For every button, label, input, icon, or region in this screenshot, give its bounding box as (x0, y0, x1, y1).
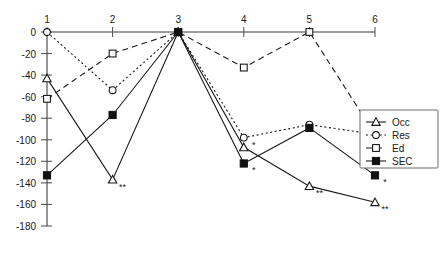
significance-marker: * (252, 140, 256, 150)
y-tick-label: -180 (16, 221, 36, 232)
data-point-res (44, 29, 51, 36)
x-tick-label: 2 (110, 14, 116, 25)
significance-marker: * (383, 177, 387, 187)
series-occ (43, 28, 379, 206)
series-layer (43, 28, 379, 206)
data-point-ed (240, 64, 247, 71)
data-point-occ (305, 182, 313, 190)
x-tick-label: 3 (175, 14, 181, 25)
x-tick-label: 6 (372, 14, 378, 25)
x-tick-label: 5 (307, 14, 313, 25)
series-line-res (47, 32, 375, 138)
legend-label-occ: Occ (392, 117, 410, 128)
data-point-ed (109, 50, 116, 57)
data-point-occ (108, 175, 116, 183)
y-tick-label: 0 (30, 27, 36, 38)
y-tick-label: -20 (22, 49, 37, 60)
data-point-sec (43, 172, 50, 179)
legend-label-ed: Ed (392, 143, 404, 154)
y-tick-label: -160 (16, 199, 36, 210)
y-tick-label: -100 (16, 135, 36, 146)
data-point-sec (240, 160, 247, 167)
data-point-ed (306, 29, 313, 36)
y-tick-label: -60 (22, 92, 37, 103)
y-tick-label: -120 (16, 156, 36, 167)
data-point-occ (240, 143, 248, 151)
data-point-sec (371, 172, 378, 179)
data-point-res (109, 87, 116, 94)
data-point-res (240, 134, 247, 141)
chart-legend: OccResEdSEC (360, 110, 438, 168)
legend-label-sec: SEC (392, 156, 413, 167)
series-line-ed (47, 32, 375, 134)
data-point-legend-sec (372, 157, 379, 164)
x-tick-label: 1 (44, 14, 50, 25)
x-tick-label: 4 (241, 14, 247, 25)
line-chart-svg: 0 -20 -40 -60 -80 -100 -120 -140 -160 -1… (0, 0, 442, 254)
significance-marker: ** (381, 204, 389, 214)
x-tick-group: 123456 (44, 14, 378, 37)
chart-container: 0 -20 -40 -60 -80 -100 -120 -140 -160 -1… (0, 0, 442, 254)
y-tick-labels: 0 -20 -40 -60 -80 -100 -120 -140 -160 -1… (16, 27, 36, 232)
legend-label-res: Res (392, 130, 410, 141)
significance-marker: ** (316, 188, 324, 198)
data-point-legend-res (373, 132, 380, 139)
series-res (44, 29, 379, 141)
data-point-legend-ed (373, 145, 380, 152)
data-point-sec (175, 28, 182, 35)
y-tick-label: -80 (22, 113, 37, 124)
significance-marker: * (252, 165, 256, 175)
significance-marker: ** (119, 182, 127, 192)
data-point-ed (44, 95, 51, 102)
y-tick-label: -140 (16, 178, 36, 189)
significance-annotations: ********* (119, 140, 389, 215)
data-point-sec (109, 111, 116, 118)
series-ed (44, 29, 379, 138)
data-point-sec (306, 124, 313, 131)
y-tick-label: -40 (22, 70, 37, 81)
series-sec (43, 28, 378, 179)
series-line-occ (47, 32, 375, 202)
